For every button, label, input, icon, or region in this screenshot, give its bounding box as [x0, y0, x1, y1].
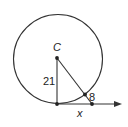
secant-intersection-point — [83, 93, 87, 97]
tangent-segment-label: x — [76, 107, 83, 119]
center-point — [55, 56, 59, 60]
tangent-point — [55, 102, 59, 106]
external-segment-label: 8 — [89, 91, 95, 103]
radius-label: 21 — [43, 75, 55, 87]
arrowhead-icon — [114, 101, 122, 107]
center-label: C — [53, 41, 61, 53]
secant-segment — [57, 58, 92, 104]
circle-tangent-diagram: C 21 8 x — [0, 0, 128, 127]
